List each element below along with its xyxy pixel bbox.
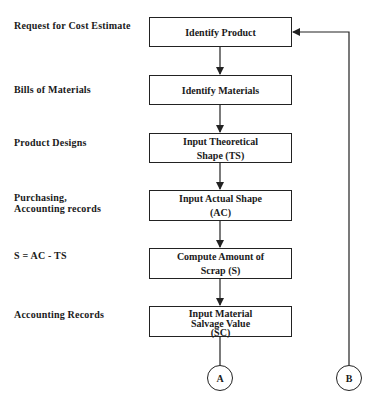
connector-b: B	[336, 365, 362, 391]
step-input-salvage-value: Input MaterialSalvage Value(SC)	[149, 306, 292, 337]
step-input-actual-shape: Input Actual Shape(AC)	[149, 190, 292, 221]
step-identify-materials: Identify Materials	[149, 75, 292, 105]
loop-back-arrow	[293, 32, 349, 365]
input-label-4: S = AC - TS	[14, 250, 67, 261]
connector-a: A	[207, 365, 233, 391]
input-label-5: Accounting Records	[14, 309, 104, 320]
input-label-0: Request for Cost Estimate	[14, 20, 131, 31]
step-input-theoretical-shape: Input TheoreticalShape (TS)	[149, 133, 292, 163]
input-label-2: Product Designs	[14, 137, 87, 148]
step-compute-scrap: Compute Amount ofScrap (S)	[149, 248, 292, 279]
input-label-3: Purchasing,Accounting records	[14, 192, 101, 214]
step-identify-product: Identify Product	[149, 17, 292, 47]
input-label-1: Bills of Materials	[14, 84, 91, 95]
